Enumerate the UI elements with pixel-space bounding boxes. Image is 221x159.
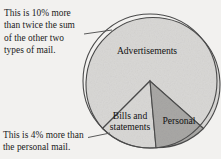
- slice-label-bills-and-statements: Bills and statements: [104, 110, 156, 133]
- annotation-bills: This is 4% more than the personal mail.: [3, 129, 84, 154]
- leader-line-advertisements: [84, 30, 112, 34]
- slice-label-advertisements: Advertisements: [106, 45, 188, 56]
- leader-line-bills: [88, 133, 110, 138]
- annotation-advertisements: This is 10% more than twice the sum of t…: [4, 7, 75, 57]
- slice-label-personal: Personal: [156, 115, 202, 126]
- pie-chart-figure: This is 10% more than twice the sum of t…: [0, 0, 221, 159]
